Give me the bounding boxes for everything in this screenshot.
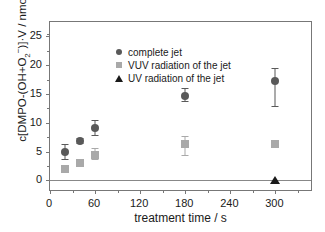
marker-circle-icon bbox=[181, 92, 189, 100]
legend-swatch bbox=[116, 62, 122, 68]
data-point-circle bbox=[181, 92, 189, 100]
marker-square-icon bbox=[91, 151, 99, 159]
error-bar-cap bbox=[272, 106, 279, 107]
marker-square-icon bbox=[76, 159, 84, 167]
x-tick-label: 180 bbox=[175, 197, 193, 209]
x-tick-label: 0 bbox=[46, 197, 52, 209]
x-axis-title: treatment time / s bbox=[49, 211, 312, 225]
y-tick bbox=[46, 123, 50, 124]
marker-circle-icon bbox=[91, 124, 99, 132]
data-point-circle bbox=[91, 124, 99, 132]
y-tick-minor bbox=[47, 137, 50, 138]
error-bar-cap bbox=[92, 148, 99, 149]
error-bar-cap bbox=[92, 135, 99, 136]
plot-area: complete jetVUV radiation of the jetUV r… bbox=[49, 21, 312, 191]
x-tick bbox=[95, 190, 96, 194]
legend-swatch bbox=[116, 49, 122, 55]
y-tick-minor bbox=[47, 34, 50, 35]
legend-label: UV radiation of the jet bbox=[128, 73, 224, 84]
marker-square-icon bbox=[271, 140, 279, 148]
marker-circle-icon bbox=[61, 148, 69, 156]
x-tick-minor bbox=[118, 190, 119, 193]
y-tick bbox=[46, 180, 50, 181]
legend-label: complete jet bbox=[128, 47, 182, 58]
y-axis-title-sub: 2 bbox=[23, 53, 32, 57]
y-tick-label: 0 bbox=[36, 173, 42, 185]
marker-triangle-icon bbox=[270, 176, 280, 184]
y-axis-title-prefix: c[DMPO-(OH+O bbox=[16, 58, 28, 142]
x-tick-minor bbox=[298, 190, 299, 193]
chart-legend: complete jetVUV radiation of the jetUV r… bbox=[110, 46, 231, 85]
marker-circle-icon bbox=[76, 137, 84, 145]
y-tick-label: 10 bbox=[30, 116, 42, 128]
y-tick bbox=[46, 36, 50, 37]
data-point-circle bbox=[76, 137, 84, 145]
legend-marker-triangle-icon bbox=[110, 75, 128, 82]
x-tick bbox=[275, 190, 276, 194]
x-tick bbox=[230, 190, 231, 194]
x-tick-label: 240 bbox=[220, 197, 238, 209]
data-point-square bbox=[181, 140, 189, 148]
chart-figure: c[DMPO-(OH+O2−)]·V / nmol treatment time… bbox=[0, 0, 325, 232]
error-bar-cap bbox=[182, 136, 189, 137]
error-bar-cap bbox=[182, 88, 189, 89]
x-tick bbox=[140, 190, 141, 194]
data-point-square bbox=[76, 159, 84, 167]
error-bar-cap bbox=[92, 159, 99, 160]
y-tick bbox=[46, 94, 50, 95]
error-bar-cap bbox=[272, 68, 279, 69]
legend-label: VUV radiation of the jet bbox=[128, 60, 231, 71]
y-tick-minor bbox=[47, 108, 50, 109]
y-tick bbox=[46, 65, 50, 66]
y-axis-title-suffix: )]·V / nmol bbox=[16, 0, 28, 49]
data-point-square bbox=[271, 140, 279, 148]
y-tick-label: 5 bbox=[36, 145, 42, 157]
y-tick bbox=[46, 152, 50, 153]
x-tick-label: 300 bbox=[265, 197, 283, 209]
marker-square-icon bbox=[61, 165, 69, 173]
data-point-circle bbox=[271, 77, 279, 85]
legend-item: UV radiation of the jet bbox=[110, 72, 231, 84]
y-tick-minor bbox=[47, 51, 50, 52]
error-bar-cap bbox=[182, 155, 189, 156]
x-tick-label: 120 bbox=[130, 197, 148, 209]
marker-circle-icon bbox=[271, 77, 279, 85]
x-tick-minor bbox=[208, 190, 209, 193]
error-bar-cap bbox=[92, 120, 99, 121]
data-point-triangle bbox=[270, 176, 280, 184]
legend-swatch bbox=[115, 75, 123, 82]
x-tick bbox=[50, 190, 51, 194]
y-tick-label: 20 bbox=[30, 58, 42, 70]
marker-square-icon bbox=[181, 140, 189, 148]
legend-item: complete jet bbox=[110, 46, 231, 58]
x-tick-minor bbox=[253, 190, 254, 193]
legend-marker-square-icon bbox=[110, 62, 128, 68]
error-bar-cap bbox=[62, 159, 69, 160]
legend-item: VUV radiation of the jet bbox=[110, 59, 231, 71]
y-tick-minor bbox=[47, 80, 50, 81]
error-bar-cap bbox=[182, 101, 189, 102]
legend-marker-circle-icon bbox=[110, 49, 128, 55]
error-bar-stem bbox=[275, 68, 276, 107]
x-tick bbox=[185, 190, 186, 194]
x-tick-minor bbox=[73, 190, 74, 193]
y-tick-minor bbox=[47, 166, 50, 167]
x-tick-label: 60 bbox=[88, 197, 100, 209]
data-point-square bbox=[91, 151, 99, 159]
error-bar-cap bbox=[62, 144, 69, 145]
y-tick-label: 15 bbox=[30, 87, 42, 99]
y-axis-title-sup: − bbox=[14, 49, 23, 54]
y-tick-label: 25 bbox=[30, 29, 42, 41]
y-axis-title: c[DMPO-(OH+O2−)]·V / nmol bbox=[14, 0, 31, 154]
x-tick-minor bbox=[163, 190, 164, 193]
data-point-circle bbox=[61, 148, 69, 156]
error-bar bbox=[275, 68, 276, 107]
data-point-square bbox=[61, 165, 69, 173]
